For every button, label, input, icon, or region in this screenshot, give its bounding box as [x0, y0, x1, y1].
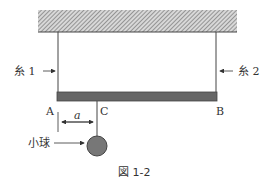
label-string-1: 糸 1 — [14, 66, 36, 77]
label-point-a: A — [46, 106, 54, 117]
label-point-b: B — [216, 106, 224, 117]
label-ball: 小球 — [28, 138, 50, 149]
label-point-c: C — [100, 106, 108, 117]
label-string-2: 糸 2 — [238, 66, 260, 77]
ball — [87, 136, 107, 156]
ceiling — [38, 10, 237, 32]
label-distance-a: a — [74, 110, 81, 121]
figure-caption: 図 1-2 — [118, 163, 150, 179]
diagram-canvas — [0, 0, 271, 182]
bar-ab — [57, 92, 217, 101]
